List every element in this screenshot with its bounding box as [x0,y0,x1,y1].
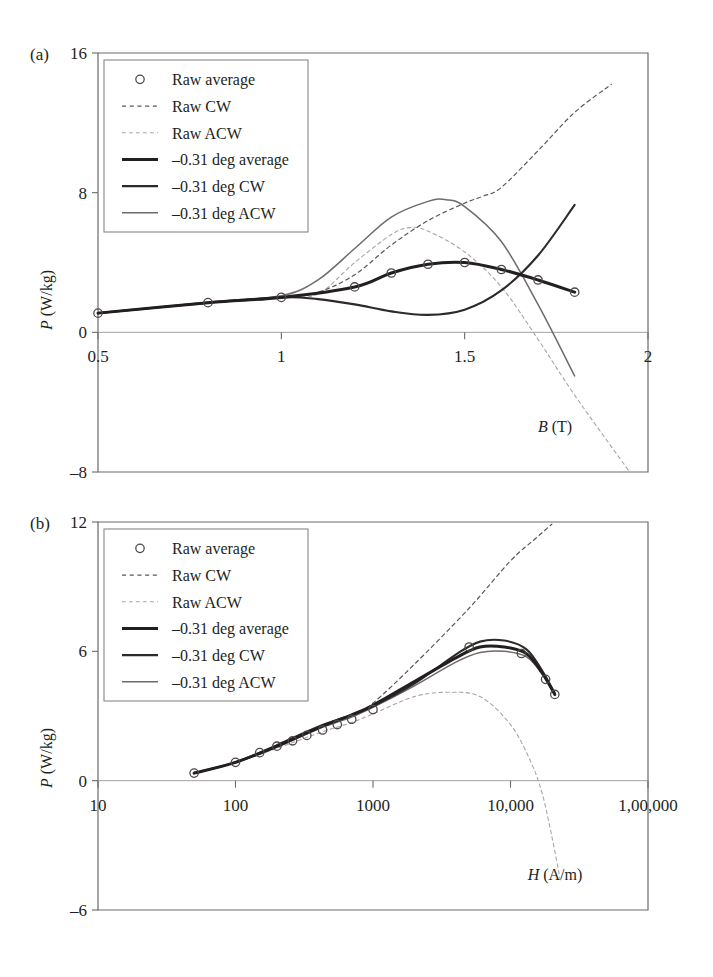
x-tick-label: 2 [644,347,653,366]
x-tick-label: 10,000 [487,796,534,815]
legend-item-label: –0.31 deg ACW [171,674,276,692]
legend-item-label: Raw CW [172,567,232,584]
legend-item-label: –0.31 deg CW [171,647,266,665]
x-tick-label: 1000 [356,796,390,815]
x-axis-title: B (T) [538,418,572,436]
legend-item-label: –0.31 deg ACW [171,205,276,223]
y-axis-title: P (W/kg) [38,728,56,789]
x-tick-label: 1 [277,347,286,366]
y-tick-label: 6 [79,642,88,661]
panel-tag: (a) [30,45,49,64]
svg-text:P (W/kg): P (W/kg) [38,728,56,789]
x-tick-label: 1,00,000 [618,796,678,815]
legend-item-label: Raw average [172,540,255,558]
y-tick-label: 0 [79,772,88,791]
panel-tag: (b) [30,514,50,533]
legend-item-label: Raw average [172,71,255,89]
x-tick-label: 10 [90,796,107,815]
chart-svg-a: 1680–80.511.52(a)P (W/kg)B (T)Raw averag… [0,0,713,490]
y-tick-label: 16 [70,44,87,63]
legend-item-label: Raw ACW [172,594,243,611]
svg-text:P (W/kg): P (W/kg) [38,270,56,331]
y-tick-label: –6 [69,901,87,920]
chart-panel-b: 1260–610100100010,0001,00,000(b)P (W/kg)… [0,468,713,977]
legend-item-label: Raw ACW [172,125,243,142]
figure-container: 1680–80.511.52(a)P (W/kg)B (T)Raw averag… [0,0,713,977]
y-tick-label: 8 [79,184,88,203]
legend-item-label: Raw CW [172,98,232,115]
legend-item-label: –0.31 deg average [171,151,289,169]
x-tick-label: 0.5 [87,347,108,366]
x-tick-label: 1.5 [454,347,475,366]
legend-item-label: –0.31 deg average [171,620,289,638]
x-tick-label: 100 [223,796,249,815]
y-tick-label: 12 [70,513,87,532]
legend-item-label: –0.31 deg CW [171,178,266,196]
series-curve [98,227,630,472]
series-curve [98,262,575,313]
chart-panel-a: 1680–80.511.52(a)P (W/kg)B (T)Raw averag… [0,0,713,490]
chart-svg-b: 1260–610100100010,0001,00,000(b)P (W/kg)… [0,468,713,977]
y-tick-label: 0 [79,323,88,342]
series-curve [194,692,560,880]
x-axis-title: H (A/m) [527,866,583,884]
y-axis-title: P (W/kg) [38,270,56,331]
